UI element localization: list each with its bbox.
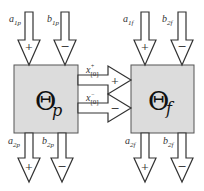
sign-a1p: +: [25, 41, 33, 52]
arrow-a1f: [134, 12, 156, 65]
sign-a2f: +: [141, 161, 149, 172]
block-theta-p-sub: p: [52, 101, 62, 120]
label-b1p: b1p: [47, 13, 60, 27]
arrow-b2f-out: [171, 133, 193, 182]
diagram-canvas: + − + − + − + − + − Θ p Θ f a1p b1p a1f …: [0, 0, 204, 191]
arrow-b2p: [51, 133, 73, 182]
label-b2f-out: b2f: [163, 135, 175, 149]
sign-b1p: −: [60, 40, 69, 53]
arrow-a2f: [134, 133, 156, 182]
label-a1p: a1p: [9, 13, 22, 27]
label-a2p: a2p: [8, 135, 21, 149]
label-a2f: a2f: [125, 135, 137, 149]
label-b2p: b2p: [42, 135, 55, 149]
label-a1f: a1f: [123, 13, 135, 27]
sign-b2f-in: −: [177, 40, 186, 53]
sign-b2p: −: [57, 160, 66, 173]
sign-a1f: +: [141, 41, 149, 52]
label-b2f-in: b2f: [162, 13, 174, 27]
arrow-b2f-in: [171, 12, 193, 65]
sign-x0-plus: +: [111, 75, 119, 86]
sign-b2f-out: −: [177, 160, 186, 173]
sign-a2p: +: [25, 161, 33, 172]
arrow-a2p: [18, 133, 40, 182]
sign-x0-minus: −: [110, 102, 119, 115]
arrow-a1p: [18, 12, 40, 65]
